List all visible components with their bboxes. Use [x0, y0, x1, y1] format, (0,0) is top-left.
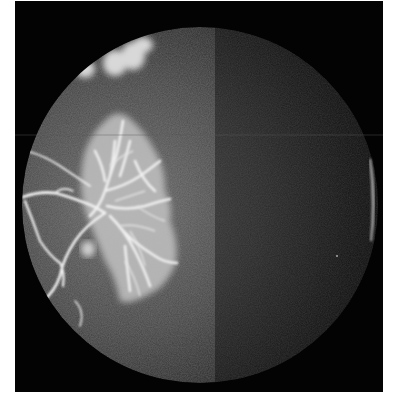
fundus-disc — [15, 1, 383, 392]
angiogram-frame — [15, 1, 383, 392]
leakage-spot — [81, 241, 95, 257]
speck — [336, 255, 338, 257]
fundus-image — [15, 1, 383, 392]
